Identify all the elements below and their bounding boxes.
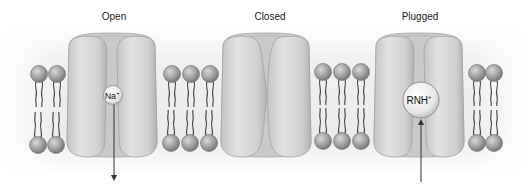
state-label-plugged: Plugged bbox=[402, 11, 439, 22]
blocker-molecule-rnh: RNH+ bbox=[403, 82, 439, 118]
ion-symbol-rnh: RNH bbox=[406, 95, 428, 106]
ion-symbol-na: Na bbox=[105, 91, 117, 101]
sodium-ion: Na+ bbox=[104, 86, 123, 105]
sodium-channel-diagram: Open Closed Plugged Na+ RNH+ bbox=[0, 0, 528, 195]
state-label-closed: Closed bbox=[254, 11, 285, 22]
channel-closed bbox=[221, 33, 311, 157]
ion-charge-na: + bbox=[116, 90, 119, 96]
state-label-open: Open bbox=[102, 11, 126, 22]
ion-charge-rnh: + bbox=[428, 94, 432, 100]
